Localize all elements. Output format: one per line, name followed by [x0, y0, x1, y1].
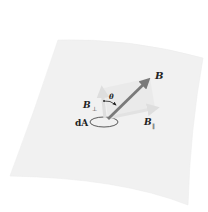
- surface-sheet: [10, 40, 203, 205]
- label-da: dA: [75, 118, 89, 128]
- label-b-parallel: B: [143, 117, 152, 127]
- label-b-perp-subscript: ⊥: [92, 105, 97, 112]
- magnetic-flux-diagram: B θ B ⊥ dA B ∥: [0, 0, 208, 212]
- label-b-parallel-subscript: ∥: [152, 122, 155, 130]
- label-b-perp: B: [82, 100, 91, 110]
- label-b: B: [154, 70, 163, 81]
- label-theta: θ: [109, 92, 114, 101]
